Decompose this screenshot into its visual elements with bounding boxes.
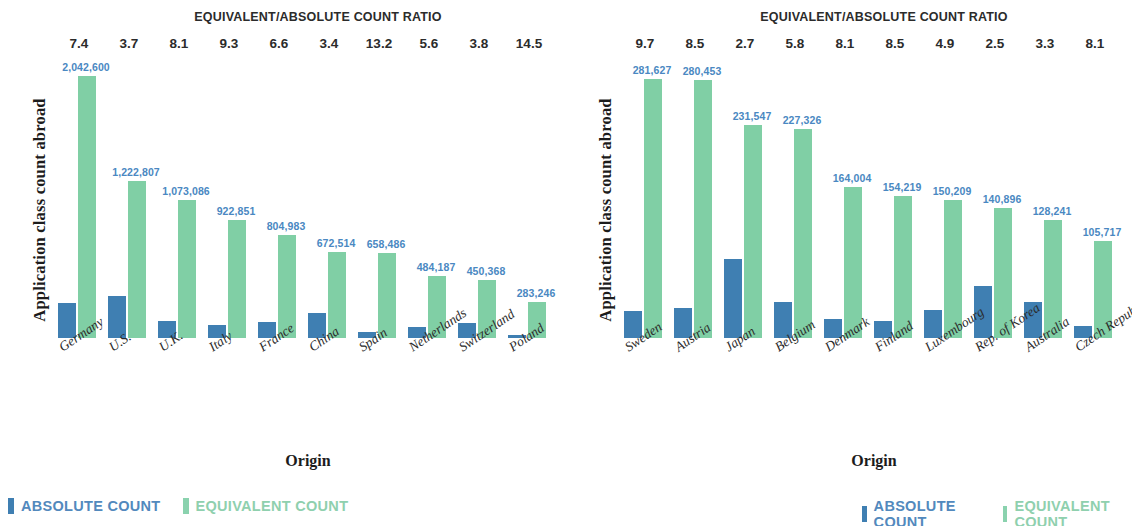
- ratio-value: 3.4: [304, 36, 354, 58]
- x-axis-title-left: Origin: [0, 452, 566, 470]
- chart-panel-left: EQUIVALENT/ABSOLUTE COUNT RATIO 7.43.78.…: [0, 0, 566, 526]
- bar-equivalent-count: [228, 220, 246, 338]
- legend-label-equivalent: EQUIVALENT COUNT: [1014, 498, 1132, 526]
- ratio-value: 6.6: [254, 36, 304, 58]
- bar-group: [354, 62, 404, 338]
- bar-equivalent-count: [694, 80, 712, 338]
- bar-group: [454, 62, 504, 338]
- ratio-value: 14.5: [504, 36, 554, 58]
- bar-group: [1070, 62, 1120, 338]
- bar-group: [1020, 62, 1070, 338]
- bar-group: [54, 62, 104, 338]
- ratio-value: 5.8: [770, 36, 820, 58]
- ratio-value: 3.3: [1020, 36, 1070, 58]
- bar-group: [154, 62, 204, 338]
- bar-group: [404, 62, 454, 338]
- legend-swatch-equivalent-icon: [1003, 506, 1008, 522]
- bar-group: [870, 62, 920, 338]
- ratio-value: 2.5: [970, 36, 1020, 58]
- bar-absolute-count: [724, 259, 742, 338]
- x-tick-labels-right: SwedenAustriaJapanBelgiumDenmarkFinlandL…: [620, 342, 1120, 447]
- ratio-value: 3.7: [104, 36, 154, 58]
- ratio-value: 8.1: [154, 36, 204, 58]
- ratio-value: 2.7: [720, 36, 770, 58]
- ratio-value: 7.4: [54, 36, 104, 58]
- plot-area-left: 2,042,6001,222,8071,073,086922,851804,98…: [54, 62, 554, 338]
- x-tick-labels-left: GermanyU.S.U.K.ItalyFranceChinaSpainNeth…: [54, 342, 554, 447]
- ratio-value: 9.7: [620, 36, 670, 58]
- ratio-value: 8.5: [870, 36, 920, 58]
- x-axis-title-right: Origin: [566, 452, 1132, 470]
- ratio-values-row-left: 7.43.78.19.36.63.413.25.63.814.5: [54, 36, 554, 58]
- legend-label-absolute: ABSOLUTE COUNT: [21, 498, 161, 514]
- bar-group: [820, 62, 870, 338]
- y-axis-title-left: Application class count abroad: [30, 80, 50, 340]
- bar-equivalent-count: [794, 129, 812, 338]
- ratio-value: 13.2: [354, 36, 404, 58]
- bar-value-label: 105,717: [1076, 226, 1128, 238]
- bar-group: [304, 62, 354, 338]
- bar-group: [920, 62, 970, 338]
- bar-group: [254, 62, 304, 338]
- legend-swatch-absolute-icon: [862, 506, 867, 522]
- bar-equivalent-count: [744, 125, 762, 338]
- legend-swatch-absolute-icon: [8, 498, 14, 514]
- ratio-value: 3.8: [454, 36, 504, 58]
- legend-swatch-equivalent-icon: [183, 498, 189, 514]
- bar-group: [620, 62, 670, 338]
- bar-group: [204, 62, 254, 338]
- ratio-axis-title-right: EQUIVALENT/ABSOLUTE COUNT RATIO: [566, 10, 1132, 24]
- bar-equivalent-count: [128, 181, 146, 338]
- legend-item-absolute: ABSOLUTE COUNT: [862, 498, 981, 526]
- plot-area-right: 281,627280,453231,547227,326164,004154,2…: [620, 62, 1120, 338]
- ratio-value: 5.6: [404, 36, 454, 58]
- bar-group: [104, 62, 154, 338]
- bar-value-label: 283,246: [510, 287, 562, 299]
- ratio-values-row-right: 9.78.52.75.88.18.54.92.53.38.1: [620, 36, 1120, 58]
- legend-label-absolute: ABSOLUTE COUNT: [874, 498, 981, 526]
- chart-panel-right: EQUIVALENT/ABSOLUTE COUNT RATIO 9.78.52.…: [566, 0, 1132, 526]
- bar-equivalent-count: [178, 200, 196, 338]
- legend-right: ABSOLUTE COUNT EQUIVALENT COUNT: [862, 498, 1132, 526]
- legend-item-equivalent: EQUIVALENT COUNT: [1003, 498, 1132, 526]
- legend-item-absolute: ABSOLUTE COUNT: [8, 498, 161, 514]
- legend-label-equivalent: EQUIVALENT COUNT: [196, 498, 349, 514]
- ratio-value: 9.3: [204, 36, 254, 58]
- ratio-value: 4.9: [920, 36, 970, 58]
- bar-group: [720, 62, 770, 338]
- bar-equivalent-count: [78, 76, 96, 338]
- chart-page: EQUIVALENT/ABSOLUTE COUNT RATIO 7.43.78.…: [0, 0, 1132, 526]
- ratio-axis-title-left: EQUIVALENT/ABSOLUTE COUNT RATIO: [0, 10, 566, 24]
- ratio-value: 8.1: [820, 36, 870, 58]
- bar-equivalent-count: [894, 196, 912, 338]
- ratio-value: 8.1: [1070, 36, 1120, 58]
- bar-group: [670, 62, 720, 338]
- ratio-value: 8.5: [670, 36, 720, 58]
- bar-group: [770, 62, 820, 338]
- legend-left: ABSOLUTE COUNT EQUIVALENT COUNT: [8, 498, 348, 514]
- y-axis-title-right: Application class count abroad: [596, 80, 616, 340]
- bar-equivalent-count: [644, 79, 662, 338]
- legend-item-equivalent: EQUIVALENT COUNT: [183, 498, 349, 514]
